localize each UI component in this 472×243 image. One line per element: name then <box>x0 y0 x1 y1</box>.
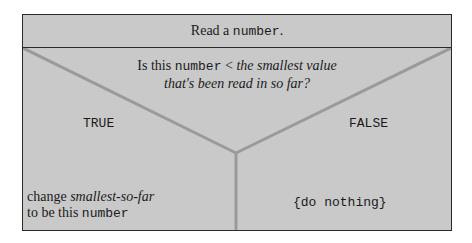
true-label: TRUE <box>83 116 114 131</box>
decision-condition: Is this number < the smallest value that… <box>23 57 451 92</box>
structogram: Read a number. Is this number < the smal… <box>22 14 452 231</box>
false-label: FALSE <box>349 116 388 131</box>
false-action: {do nothing} <box>293 195 387 210</box>
read-number-step: Read a number. <box>23 15 451 48</box>
read-number-text: Read a number. <box>23 23 451 39</box>
true-action: change smallest-so-far to be this number <box>27 189 154 222</box>
